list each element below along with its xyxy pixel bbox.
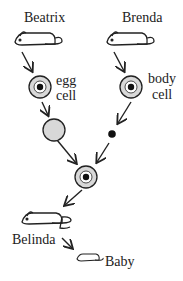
mouse-brenda-icon [107,32,154,45]
nucleus-icon [108,130,116,138]
mouse-beatrix-icon [15,32,62,45]
body-cell-icon [120,76,142,98]
label-egg: egg [56,73,76,88]
mouse-belinda-icon [22,212,71,228]
label-body-cell: cell [152,87,172,102]
label-egg-cell: cell [56,88,76,103]
enucleated-egg-icon [43,119,65,141]
label-beatrix: Beatrix [24,10,65,25]
fused-cell-icon [75,166,97,188]
label-brenda: Brenda [122,10,162,25]
label-baby: Baby [105,254,135,269]
label-belinda: Belinda [12,232,56,247]
mouse-baby-icon [77,254,103,261]
label-body: body [148,71,176,86]
egg-cell-icon [29,76,51,98]
